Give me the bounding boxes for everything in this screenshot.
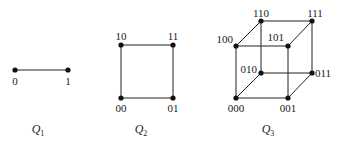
graph-caption: Q3	[262, 122, 275, 138]
graph-q1: 01Q1	[12, 67, 71, 138]
vertex-000	[233, 95, 238, 100]
edge-011-001	[288, 73, 312, 98]
vertex-10	[118, 42, 123, 47]
vertex-011	[309, 70, 314, 75]
vertex-11	[170, 42, 175, 47]
graph-caption: Q2	[135, 122, 148, 138]
vertex-label: 100	[217, 33, 234, 45]
vertex-label: 001	[280, 102, 297, 114]
graph-q3: 110111100101010011000001Q3	[217, 7, 332, 138]
vertex-label: 01	[168, 102, 179, 114]
vertex-001	[285, 95, 290, 100]
vertex-01	[170, 95, 175, 100]
vertex-label: 11	[168, 30, 179, 42]
vertex-101	[285, 43, 290, 48]
vertex-00	[118, 95, 123, 100]
edge-110-100	[236, 21, 261, 46]
vertex-label: 10	[116, 30, 128, 42]
vertex-111	[309, 18, 314, 23]
vertex-100	[233, 43, 238, 48]
edge-010-000	[236, 73, 261, 98]
vertex-1	[65, 67, 70, 72]
hypercube-diagram: 01Q1 10110001Q2 110111100101010011000001…	[0, 0, 340, 151]
vertex-label: 1	[65, 75, 71, 87]
vertex-label: 000	[228, 102, 245, 114]
vertex-label: 111	[307, 7, 323, 19]
vertex-110	[258, 18, 263, 23]
edge-111-101	[288, 21, 312, 46]
vertex-label: 0	[12, 75, 18, 87]
vertex-0	[12, 67, 17, 72]
vertex-label: 00	[116, 102, 128, 114]
graph-caption: Q1	[32, 122, 45, 138]
vertex-label: 110	[253, 7, 270, 19]
vertex-label: 010	[241, 63, 258, 75]
graph-q2: 10110001Q2	[116, 30, 179, 138]
vertex-label: 101	[268, 31, 285, 43]
vertex-010	[258, 70, 263, 75]
vertex-label: 011	[315, 67, 331, 79]
